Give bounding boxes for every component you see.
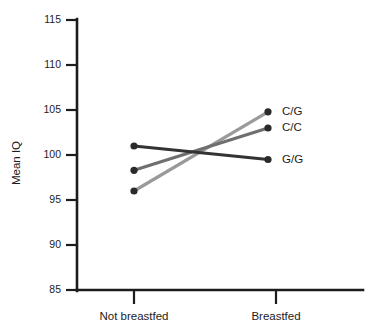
- y-tick-label: 95: [49, 193, 61, 205]
- series-gg-point-left: [130, 142, 137, 149]
- y-tick-label: 110: [44, 58, 61, 70]
- series-cg-label: C/G: [282, 105, 303, 117]
- y-axis-tick-labels: 115 110 105 100 95 90 85: [43, 13, 61, 295]
- y-tick-label: 85: [49, 283, 61, 295]
- series-cg-point-right: [264, 108, 271, 115]
- series-cc-point-right: [264, 124, 271, 131]
- series-gg-point-right: [264, 156, 271, 163]
- x-axis-ticks: [134, 290, 276, 304]
- series-cc-point-left: [130, 167, 137, 174]
- line-chart-canvas: 115 110 105 100 95 90 85 Mean IQ Not bre…: [0, 0, 376, 335]
- y-axis-title: Mean IQ: [10, 141, 22, 185]
- y-tick-label: 100: [43, 148, 61, 160]
- series-cc-label: C/C: [282, 121, 302, 133]
- series-cg-point-left: [130, 187, 137, 194]
- chart-figure: 115 110 105 100 95 90 85 Mean IQ Not bre…: [0, 0, 376, 335]
- x-tick-label-breastfed: Breastfed: [251, 310, 300, 322]
- y-tick-label: 115: [44, 13, 61, 25]
- x-tick-label-not-breastfed: Not breastfed: [99, 310, 168, 322]
- y-tick-label: 105: [43, 103, 61, 115]
- y-tick-label: 90: [49, 238, 61, 250]
- series-gg-label: G/G: [282, 153, 303, 165]
